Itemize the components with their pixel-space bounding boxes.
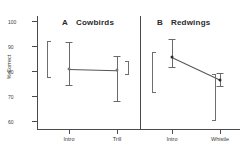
significance-bracket: [152, 52, 156, 92]
x-tick-mark: [172, 129, 173, 134]
y-tick: 90: [0, 46, 37, 47]
panel-divider: [140, 16, 141, 130]
panel-b-letter: B: [157, 18, 163, 27]
data-point-marker: [116, 68, 119, 71]
error-bar-cap-bottom: [114, 101, 121, 102]
y-tick-label: 70: [8, 94, 14, 100]
panel-a-title: ACowbirds: [62, 18, 114, 27]
data-point-marker: [68, 67, 71, 70]
error-bar: [172, 39, 173, 68]
x-tick-label: Intro: [63, 136, 74, 142]
y-tick: 100: [0, 21, 37, 22]
panel-b-label: Redwings: [171, 18, 210, 27]
y-tick: 70: [0, 96, 37, 97]
y-axis-line: [37, 16, 38, 130]
x-tick-label: Trill: [113, 136, 122, 142]
x-tick-mark: [69, 129, 70, 134]
y-tick: 80: [0, 71, 37, 72]
figure-container: % Correct 10090807060 ACowbirds BRedwing…: [0, 0, 251, 150]
x-tick-mark: [117, 129, 118, 134]
error-bar-cap-top: [217, 73, 224, 74]
x-tick-label: Intro: [166, 136, 177, 142]
significance-bracket: [47, 41, 51, 77]
y-tick-label: 60: [8, 119, 14, 125]
error-bar: [117, 56, 118, 101]
significance-bracket: [212, 74, 216, 122]
significance-bracket: [125, 61, 129, 75]
x-tick-label: Whistle: [211, 136, 229, 142]
series-line: [69, 69, 117, 71]
panel-b-title: BRedwings: [157, 18, 210, 27]
x-tick-mark: [220, 129, 221, 134]
x-axis-line: [37, 129, 240, 130]
error-bar-cap-bottom: [217, 86, 224, 87]
error-bar-cap-top: [169, 39, 176, 40]
data-point-marker: [171, 56, 174, 59]
error-bar-cap-top: [66, 42, 73, 43]
y-tick: 60: [0, 121, 37, 122]
panel-a-letter: A: [62, 18, 68, 27]
error-bar-cap-top: [114, 56, 121, 57]
panel-a-label: Cowbirds: [76, 18, 114, 27]
y-tick-label: 80: [8, 69, 14, 75]
data-point-marker: [219, 79, 222, 82]
error-bar-cap-bottom: [66, 85, 73, 86]
error-bar-cap-bottom: [169, 67, 176, 68]
y-axis-title: % Correct: [6, 45, 12, 89]
error-bar: [69, 42, 70, 85]
y-tick-label: 100: [8, 19, 16, 25]
y-tick-label: 90: [8, 44, 14, 50]
